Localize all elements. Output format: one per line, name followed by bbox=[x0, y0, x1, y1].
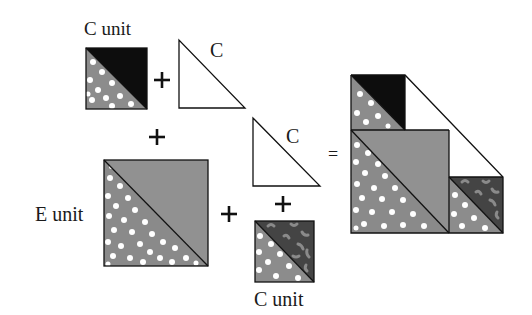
assembled-block bbox=[351, 75, 503, 233]
c-triangle-1-label: C bbox=[210, 39, 223, 61]
c-unit-bottom-label: C unit bbox=[254, 288, 304, 310]
c-unit-top bbox=[86, 48, 148, 109]
plus-icon-3 bbox=[221, 206, 237, 222]
e-unit-label: E unit bbox=[35, 203, 84, 225]
plus-icon-1 bbox=[154, 72, 170, 88]
e-unit bbox=[104, 160, 208, 267]
c-unit-bottom bbox=[255, 221, 314, 282]
c-unit-top-label: C unit bbox=[84, 18, 132, 39]
plus-icon-4 bbox=[275, 196, 291, 212]
c-triangle-2-label: C bbox=[286, 125, 299, 147]
quilt-assembly-diagram: C unit C bbox=[0, 0, 532, 315]
equals-icon: = bbox=[328, 144, 338, 164]
plus-icon-2 bbox=[149, 129, 165, 145]
